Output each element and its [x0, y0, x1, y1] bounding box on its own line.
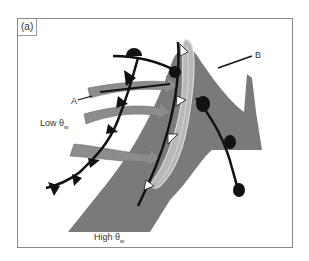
label-high-theta: High θw: [94, 232, 124, 246]
label-low-theta: Low θw: [40, 118, 68, 132]
panel-label-text: (a): [21, 21, 33, 32]
b-pointer: [218, 56, 252, 68]
label-b: B: [255, 50, 261, 60]
panel-label-box: (a): [18, 19, 37, 36]
label-a: A: [71, 96, 77, 106]
